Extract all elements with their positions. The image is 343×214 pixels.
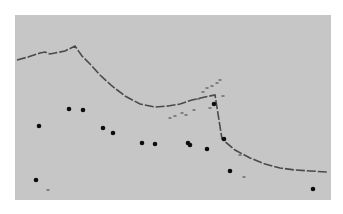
noise-point — [243, 176, 246, 178]
noise-point — [206, 87, 209, 89]
data-point — [228, 169, 233, 174]
plot-panel — [15, 15, 331, 200]
noise-point — [239, 154, 242, 156]
data-point — [111, 131, 116, 136]
noise-point — [181, 112, 184, 114]
noise-point — [193, 109, 196, 111]
noise-point — [185, 114, 188, 116]
data-point — [34, 178, 39, 183]
data-point — [37, 124, 42, 129]
noise-point — [216, 82, 219, 84]
noise-point — [197, 98, 200, 100]
noise-point — [174, 115, 177, 117]
noise-point — [211, 85, 214, 87]
data-point — [153, 142, 158, 147]
noise-point — [169, 117, 172, 119]
data-point — [140, 141, 145, 146]
noise-point — [209, 107, 212, 109]
chart-plot — [0, 0, 343, 214]
data-point — [101, 126, 106, 131]
data-point — [212, 102, 217, 107]
data-point — [222, 137, 227, 142]
data-point — [311, 187, 316, 192]
data-point — [81, 108, 86, 113]
noise-point — [47, 189, 50, 191]
data-point — [205, 147, 210, 152]
data-point — [188, 143, 193, 148]
data-point — [67, 107, 72, 112]
noise-point — [222, 95, 225, 97]
noise-point — [202, 91, 205, 93]
noise-point — [219, 79, 222, 81]
